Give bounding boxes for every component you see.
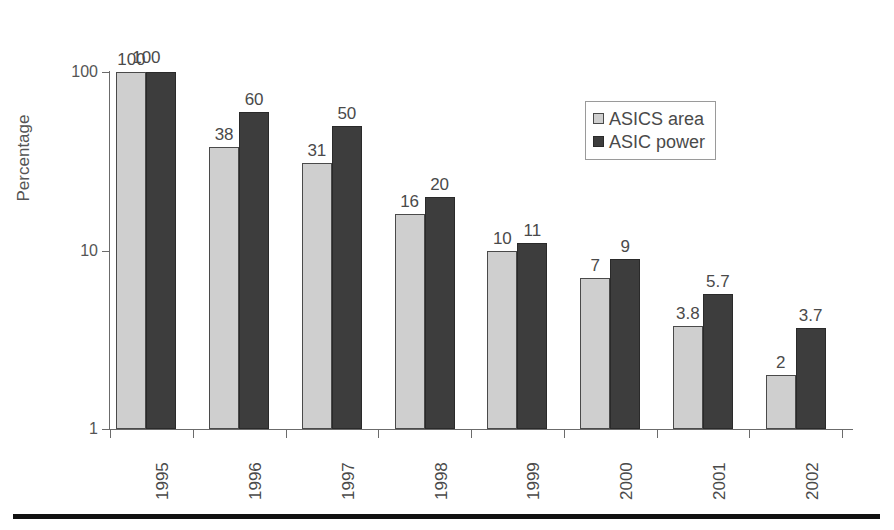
bar-value-label: 9 (603, 238, 647, 255)
bar-1997-series-1 (332, 126, 362, 429)
x-tick-label-2001: 2001 (711, 462, 728, 500)
x-axis-line (109, 429, 853, 430)
x-tick-mark (657, 430, 658, 438)
bar-1999-series-0 (487, 251, 517, 430)
y-tick-label-wrap: 10 (40, 243, 98, 259)
bar-2002-series-0 (766, 375, 796, 429)
legend-item-label: ASICS area (609, 110, 704, 128)
x-tick-mark (749, 430, 750, 438)
chart-figure: Percentage 100101 1995199619971998199920… (0, 0, 894, 530)
x-tick-mark (110, 430, 111, 438)
x-tick-label-1997: 1997 (340, 462, 357, 500)
x-tick-label-1996: 1996 (247, 462, 264, 500)
bar-1996-series-1 (239, 112, 269, 429)
y-tick-mark (102, 429, 109, 430)
bar-1995-series-0 (116, 72, 146, 429)
bar-2000-series-1 (610, 259, 640, 429)
y-tick-mark (102, 251, 109, 252)
x-tick-mark (842, 430, 843, 438)
bar-value-label: 60 (232, 91, 276, 108)
bar-1998-series-0 (395, 214, 425, 429)
y-tick-label-wrap: 1 (40, 421, 98, 437)
legend-item-label: ASIC power (609, 133, 705, 151)
bar-1998-series-1 (425, 197, 455, 429)
x-tick-mark (471, 430, 472, 438)
bar-value-label: 3.8 (666, 305, 710, 322)
bottom-divider (13, 514, 880, 519)
bar-2000-series-0 (580, 278, 610, 429)
legend-item-0: ASICS area (593, 107, 705, 130)
bar-1996-series-0 (209, 147, 239, 429)
bar-value-label: 7 (573, 257, 617, 274)
y-axis-title: Percentage (14, 98, 34, 218)
x-tick-mark (378, 430, 379, 438)
x-tick-label-1998: 1998 (433, 462, 450, 500)
bar-value-label: 50 (325, 105, 369, 122)
bar-value-label: 2 (759, 354, 803, 371)
bar-1995-series-1 (146, 72, 176, 429)
bar-1997-series-0 (302, 163, 332, 429)
dark-gray-square-icon (593, 136, 604, 147)
bar-2002-series-1 (796, 328, 826, 429)
x-tick-mark (286, 430, 287, 438)
y-tick-label: 100 (71, 64, 98, 80)
y-tick-label: 10 (80, 243, 98, 259)
x-tick-label-2002: 2002 (804, 462, 821, 500)
legend-item-1: ASIC power (593, 130, 705, 153)
bar-value-label: 38 (202, 126, 246, 143)
y-tick-label-wrap: 100 (40, 64, 98, 80)
bar-value-label: 11 (510, 222, 554, 239)
x-tick-mark (564, 430, 565, 438)
bar-value-label: 20 (418, 176, 462, 193)
x-tick-label-2000: 2000 (618, 462, 635, 500)
bar-value-label: 3.7 (789, 307, 833, 324)
bar-value-label: 100 (116, 49, 176, 66)
bar-1999-series-1 (517, 243, 547, 429)
light-gray-square-icon (593, 113, 604, 124)
bar-value-label: 5.7 (696, 273, 740, 290)
bar-value-label: 31 (295, 142, 339, 159)
y-tick-label: 1 (89, 421, 98, 437)
x-tick-mark (193, 430, 194, 438)
bar-value-label: 16 (388, 193, 432, 210)
bar-2001-series-0 (673, 326, 703, 429)
x-tick-label-1995: 1995 (154, 462, 171, 500)
chart-legend: ASICS areaASIC power (585, 101, 716, 160)
y-tick-mark (102, 72, 109, 73)
x-tick-label-1999: 1999 (525, 462, 542, 500)
